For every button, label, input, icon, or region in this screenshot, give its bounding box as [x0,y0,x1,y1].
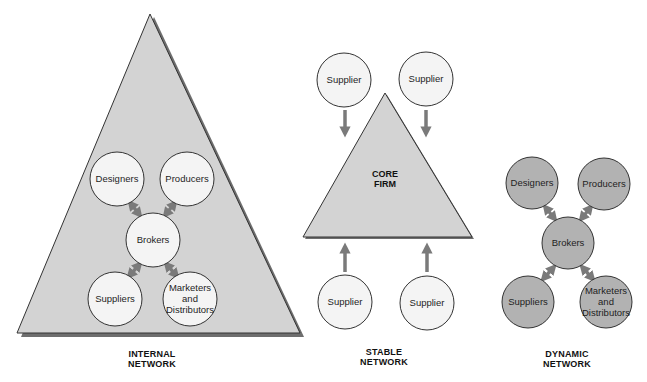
stable-caption-line2: NETWORK [339,357,429,367]
dynamic-brokers-label: Brokers [541,238,595,249]
dynamic-producers-label: Producers [577,179,631,190]
stable-caption-line1: STABLE [339,347,429,357]
arrow-dyn-brokers-marketers [583,268,592,278]
stable-supplier-top-right-label: Supplier [399,74,453,85]
arrow-dyn-brokers-suppliers [544,268,553,278]
core-line2: FIRM [355,179,415,189]
dynamic-suppliers-label: Suppliers [501,297,555,308]
arrow-dyn-producers-brokers [582,208,590,218]
stable-supplier-top-left-label: Supplier [317,75,371,86]
internal-brokers-label: Brokers [126,235,180,246]
network-structures-diagram: Designers Producers Brokers Suppliers Ma… [0,0,647,382]
internal-caption-line1: INTERNAL [107,349,197,359]
dynamic-network-caption: DYNAMIC NETWORK [522,349,612,369]
core-firm-label: CORE FIRM [355,169,415,189]
internal-network-caption: INTERNAL NETWORK [107,349,197,369]
core-firm-triangle [303,93,472,237]
dynamic-caption-line2: NETWORK [522,359,612,369]
internal-caption-line2: NETWORK [107,359,197,369]
stable-network-caption: STABLE NETWORK [339,347,429,367]
stable-supplier-bottom-left-label: Supplier [318,297,372,308]
internal-producers-label: Producers [160,174,214,185]
internal-suppliers-label: Suppliers [88,294,142,305]
dynamic-marketers-label: Marketers and Distributors [581,286,631,319]
internal-designers-label: Designers [90,174,144,185]
arrow-dyn-designers-brokers [546,208,554,218]
stable-supplier-bottom-right-label: Supplier [400,298,454,309]
core-line1: CORE [355,169,415,179]
internal-marketers-label: Marketers and Distributors [165,283,215,316]
internal-triangle [17,14,300,333]
dynamic-designers-label: Designers [505,178,559,189]
dynamic-caption-line1: DYNAMIC [522,349,612,359]
stable-network [303,52,474,330]
diagram-canvas [0,0,647,382]
